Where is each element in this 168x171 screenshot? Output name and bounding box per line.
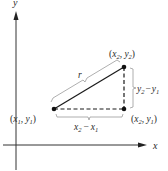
point-label-x2-y1: (x2, y1) [131, 114, 157, 125]
point-x2-y2 [122, 65, 127, 70]
point-label-x2-y2: (x2, y2) [109, 49, 135, 60]
vertical-brace [130, 68, 136, 108]
hypotenuse-line [54, 67, 124, 109]
point-label-x1-y1: (x1, y1) [10, 114, 36, 125]
point-x1-y1 [52, 107, 57, 112]
triangle [52, 65, 127, 112]
x-axis-label: x [152, 140, 158, 151]
horizontal-leg-label: x2−x1 [73, 122, 98, 133]
horizontal-brace [56, 114, 123, 120]
vertical-leg-label: y2−y1 [136, 84, 159, 95]
distance-diagram: y x (x1, y1) (x2, y2) (x2, y1) r x2−x1 y… [0, 0, 168, 171]
point-x2-y1 [122, 107, 127, 112]
x-axis-arrow-icon [138, 143, 147, 148]
y-axis-label: y [12, 0, 18, 8]
hypotenuse-brace [51, 60, 120, 102]
hypotenuse-label: r [78, 70, 82, 80]
y-axis-arrow-icon [14, 11, 19, 20]
x-axis: x [3, 140, 158, 151]
